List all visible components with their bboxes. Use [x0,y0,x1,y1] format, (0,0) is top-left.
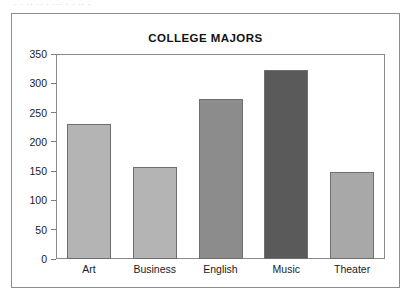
x-axis-label-music: Music [253,263,319,275]
bar-english[interactable] [199,99,243,259]
bar-music[interactable] [264,70,308,259]
chart-page: · · ·· ·· · ··· · · ·· · COLLEGE MAJORS … [0,0,415,299]
bars-layer [0,0,415,299]
x-axis-label-art: Art [56,263,122,275]
bar-theater[interactable] [330,172,374,259]
x-axis-label-english: English [188,263,254,275]
bar-art[interactable] [67,124,111,259]
x-axis-label-theater: Theater [319,263,385,275]
bar-business[interactable] [133,167,177,259]
x-axis-label-business: Business [122,263,188,275]
